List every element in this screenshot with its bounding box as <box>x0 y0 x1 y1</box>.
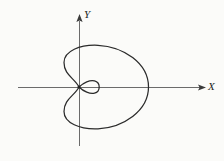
figure-container: X Y <box>0 0 224 161</box>
limacon-inner-loop <box>79 81 99 94</box>
y-axis-label: Y <box>84 9 90 20</box>
x-axis-label: X <box>208 81 215 92</box>
node-point <box>78 86 81 89</box>
y-axis-arrowhead <box>76 14 82 22</box>
limacon-plot-svg <box>0 0 224 161</box>
limacon-outer-loop <box>64 45 149 129</box>
